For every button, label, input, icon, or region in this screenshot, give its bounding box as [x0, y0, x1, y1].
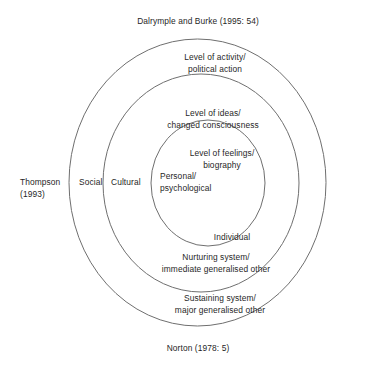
side-citation-thompson: Thompson (1993): [20, 177, 60, 200]
bottom-citation: Norton (1978: 5): [167, 343, 230, 355]
label-nurturing-system: Nurturing system/ immediate generalised …: [162, 252, 270, 275]
label-level-of-feelings: Level of feelings/ biography: [190, 148, 255, 171]
label-level-of-ideas: Level of ideas/ changed consciousness: [167, 108, 259, 131]
label-social: Social: [79, 177, 102, 189]
label-cultural: Cultural: [111, 177, 141, 189]
top-citation: Dalrymple and Burke (1995: 54): [137, 16, 259, 28]
label-individual: Individual: [214, 232, 250, 244]
label-personal-psychological: Personal/ psychological: [160, 171, 212, 194]
label-sustaining-system: Sustaining system/ major generalised oth…: [175, 293, 265, 316]
nested-circles-diagram: Dalrymple and Burke (1995: 54) Level of …: [0, 0, 388, 368]
label-level-of-activity: Level of activity/ political action: [184, 52, 245, 75]
